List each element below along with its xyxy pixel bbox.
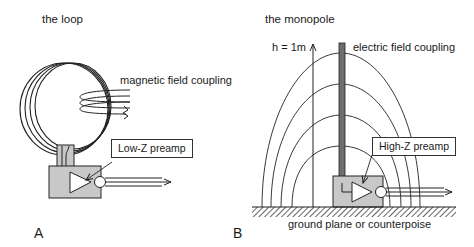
monopole-element <box>339 43 345 183</box>
connector-icon <box>376 187 387 198</box>
high-z-preamp-label: High-Z preamp <box>372 137 456 156</box>
panel-a-letter: A <box>34 226 43 240</box>
ground-plane <box>252 207 456 217</box>
electric-coupling-label: electric field coupling <box>353 42 455 53</box>
loop-antenna <box>20 63 111 155</box>
panel-b-title: the monopole <box>265 14 335 26</box>
magnetic-coupling-label: magnetic field coupling <box>120 75 232 86</box>
magnetic-field-coil-icon <box>80 90 130 119</box>
connector-icon <box>95 177 106 188</box>
panel-b-letter: B <box>233 226 242 240</box>
panel-a-title: the loop <box>42 14 83 26</box>
ground-plane-label: ground plane or counterpoise <box>288 219 431 230</box>
height-label: h = 1m <box>272 42 306 53</box>
diagram-canvas <box>0 0 474 247</box>
low-z-preamp-label: Low-Z preamp <box>111 139 193 158</box>
